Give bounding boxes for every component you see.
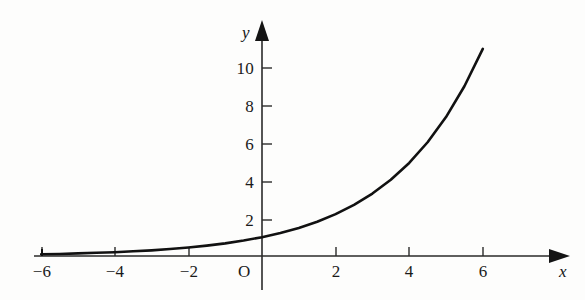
- y-tick-label-8: 8: [232, 97, 254, 117]
- y-tick-label-2: 2: [232, 211, 254, 231]
- y-axis-ticks: [262, 68, 272, 220]
- x-tick-label-pos4: 4: [398, 262, 420, 282]
- x-axis-label: x: [559, 262, 567, 282]
- y-tick-label-10: 10: [222, 59, 254, 79]
- y-axis-label: y: [242, 23, 250, 43]
- x-tick-label-pos2: 2: [325, 262, 347, 282]
- exponential-graph-figure: −6 −4 −2 O 2 4 6 2 4 6 8 10 y x: [0, 0, 585, 300]
- origin-label: O: [238, 262, 250, 282]
- x-tick-label-pos6: 6: [472, 262, 494, 282]
- x-axis-arrowhead: [549, 249, 570, 263]
- y-tick-label-4: 4: [232, 173, 254, 193]
- x-tick-label-neg6: −6: [28, 262, 56, 282]
- plot-canvas: [0, 0, 585, 300]
- x-tick-label-neg2: −2: [175, 262, 203, 282]
- y-tick-label-6: 6: [232, 135, 254, 155]
- y-axis-arrowhead: [255, 20, 269, 41]
- x-tick-label-neg4: −4: [101, 262, 129, 282]
